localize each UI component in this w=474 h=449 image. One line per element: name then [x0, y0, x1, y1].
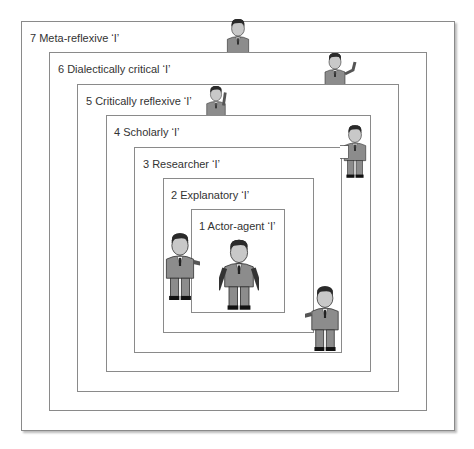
waving-figure-icon	[318, 52, 358, 84]
scratching-head-figure-icon	[203, 85, 229, 115]
explainer-right-figure-icon	[305, 285, 345, 351]
level-2-label: 2 Explanatory ‘I’	[171, 189, 249, 201]
researcher-figure-icon	[340, 118, 370, 184]
meta-figure-icon	[223, 18, 253, 52]
explainer-left-figure-icon	[160, 232, 200, 300]
level-5-label: 5 Critically reflexive ‘I’	[86, 95, 192, 107]
level-4-label: 4 Scholarly ‘I’	[114, 126, 179, 138]
actor-figure-icon	[219, 238, 259, 310]
level-6-label: 6 Dialectically critical ‘I’	[58, 63, 170, 75]
level-1-label: 1 Actor-agent ‘I’	[199, 220, 275, 232]
level-7-label: 7 Meta-reflexive ‘I’	[30, 32, 119, 44]
level-3-label: 3 Researcher ‘I’	[143, 158, 220, 170]
